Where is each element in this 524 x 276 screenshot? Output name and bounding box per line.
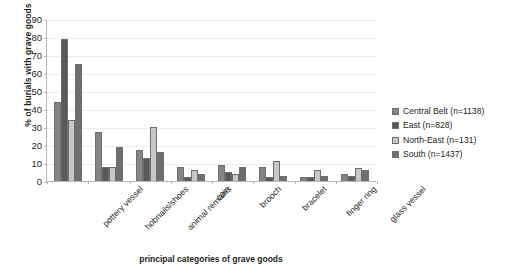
bar <box>259 167 266 181</box>
bar <box>143 158 150 181</box>
legend-swatch-icon <box>392 151 399 158</box>
bar <box>109 167 116 181</box>
x-tick-label: hobnails/shoes <box>143 184 191 232</box>
legend-item: South (n=1437) <box>392 148 484 163</box>
legend-item: North-East (n=131) <box>392 133 484 148</box>
bar <box>150 127 157 181</box>
legend-swatch-icon <box>392 108 399 115</box>
bar <box>95 132 102 181</box>
bar-group <box>253 20 294 181</box>
bar <box>136 150 143 181</box>
y-tick-label: 30 <box>31 123 42 133</box>
bar <box>177 167 184 181</box>
bar <box>307 177 314 181</box>
x-tick-label: bracelet <box>300 184 329 213</box>
bar-group <box>88 20 129 181</box>
bar-chart: % of burials with grave goods 0102030405… <box>0 0 524 276</box>
bar <box>239 167 246 181</box>
x-axis-title: principal categories of grave goods <box>46 254 376 264</box>
bar <box>225 172 232 181</box>
bar <box>300 177 307 181</box>
bar <box>184 177 191 181</box>
bar-group <box>129 20 170 181</box>
bar <box>273 161 280 181</box>
bar <box>68 120 75 181</box>
bar-group <box>47 20 88 181</box>
y-tick-label: 90 <box>31 15 42 25</box>
bar-groups <box>47 20 376 181</box>
bar-group <box>294 20 335 181</box>
legend-item-label: North-East (n=131) <box>403 136 476 145</box>
bar <box>321 176 328 181</box>
y-tick-label: 80 <box>31 33 42 43</box>
x-tick-label: finger ring <box>344 184 378 218</box>
y-tick-label: 10 <box>31 159 42 169</box>
x-tick-mark <box>377 181 378 184</box>
bar <box>280 176 287 181</box>
y-tick-label: 70 <box>31 51 42 61</box>
x-tick-label: brooch <box>258 184 284 210</box>
bar <box>198 174 205 181</box>
plot-area: 0102030405060708090 <box>46 20 376 182</box>
bar <box>355 168 362 181</box>
bar <box>116 147 123 181</box>
bar <box>75 64 82 181</box>
bar-group <box>212 20 253 181</box>
legend-item: East (n=828) <box>392 119 484 134</box>
bar <box>362 170 369 181</box>
y-tick-label: 40 <box>31 105 42 115</box>
bar <box>218 165 225 181</box>
legend-item-label: South (n=1437) <box>403 150 463 159</box>
x-axis-labels: pottery vesselhobnails/shoesanimal remai… <box>46 184 376 246</box>
x-tick-label: pottery vessel <box>101 184 146 229</box>
legend-item-label: East (n=828) <box>403 121 452 130</box>
bar <box>341 174 348 181</box>
bar <box>191 170 198 181</box>
legend-swatch-icon <box>392 137 399 144</box>
bar-group <box>170 20 211 181</box>
x-tick-label: glass vessel <box>388 184 428 224</box>
y-tick-label: 20 <box>31 141 42 151</box>
chart-legend: Central Belt (n=1138)East (n=828)North-E… <box>392 104 484 162</box>
legend-swatch-icon <box>392 122 399 129</box>
bar <box>157 152 164 181</box>
bar <box>266 177 273 181</box>
bar <box>232 174 239 181</box>
y-tick-label: 60 <box>31 69 42 79</box>
bar <box>348 176 355 181</box>
y-tick-label: 0 <box>37 177 42 187</box>
bar-group <box>335 20 376 181</box>
bar <box>54 102 61 181</box>
bar <box>61 39 68 181</box>
bar <box>314 170 321 181</box>
legend-item: Central Belt (n=1138) <box>392 104 484 119</box>
bar <box>102 167 109 181</box>
y-tick-label: 50 <box>31 87 42 97</box>
legend-item-label: Central Belt (n=1138) <box>403 107 484 116</box>
